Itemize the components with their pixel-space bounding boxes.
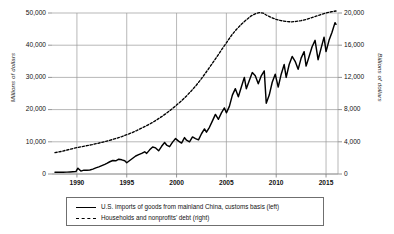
legend-item-imports: U.S. imports of goods from mainland Chin… xyxy=(76,202,279,212)
legend-item-debt: Households and nonprofits' debt (right) xyxy=(76,213,209,223)
legend-swatch-dashed-line xyxy=(76,218,96,219)
chart-figure: Millions of dollars Billions of dollars … xyxy=(0,0,394,234)
series-line-debt xyxy=(55,11,336,153)
legend-label-imports: U.S. imports of goods from mainland Chin… xyxy=(101,203,279,211)
chart-legend: U.S. imports of goods from mainland Chin… xyxy=(66,197,324,226)
legend-label-debt: Households and nonprofits' debt (right) xyxy=(101,214,209,222)
legend-swatch-solid-line xyxy=(76,207,96,208)
